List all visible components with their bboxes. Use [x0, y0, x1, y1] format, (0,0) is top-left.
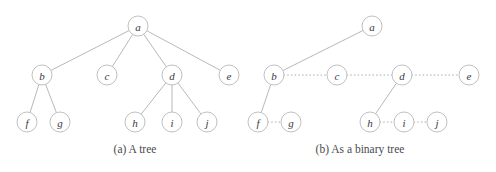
- tree-node-h[interactable]: h: [125, 112, 145, 132]
- tree-node-f[interactable]: f: [248, 112, 268, 132]
- node-label-h: h: [132, 117, 138, 129]
- edge-a-e-solid: [147, 31, 220, 71]
- tree-node-j[interactable]: j: [197, 112, 217, 132]
- tree-node-i[interactable]: i: [394, 112, 414, 132]
- panel-b-nodes: abcdefghij: [248, 16, 479, 132]
- node-label-d: d: [169, 70, 175, 82]
- tree-node-j[interactable]: j: [427, 112, 447, 132]
- tree-node-b[interactable]: b: [32, 65, 52, 85]
- edge-b-f-solid: [261, 84, 271, 112]
- tree-node-e[interactable]: e: [459, 65, 479, 85]
- tree-node-d[interactable]: d: [392, 65, 412, 85]
- node-label-i: i: [402, 117, 405, 129]
- node-label-g: g: [57, 117, 63, 129]
- panel-b: abcdefghij(b) As a binary tree: [248, 16, 479, 156]
- panel-a-nodes: abcdefghij: [17, 16, 239, 132]
- edge-a-c-solid: [112, 34, 132, 66]
- tree-node-f[interactable]: f: [17, 112, 37, 132]
- node-label-c: c: [105, 70, 110, 82]
- node-label-b: b: [39, 70, 45, 82]
- edge-b-f-solid: [30, 85, 39, 113]
- edge-a-b-solid: [51, 31, 129, 71]
- figure-container: abcdefghij(a) A treeabcdefghij(b) As a b…: [0, 0, 496, 172]
- node-label-h: h: [367, 117, 373, 129]
- tree-node-b[interactable]: b: [264, 65, 284, 85]
- panel-a-edges: [30, 31, 220, 115]
- tree-node-a[interactable]: a: [128, 16, 148, 36]
- tree-node-g[interactable]: g: [50, 112, 70, 132]
- node-label-i: i: [170, 117, 173, 129]
- tree-node-g[interactable]: g: [281, 112, 301, 132]
- node-label-c: c: [335, 70, 340, 82]
- node-label-e: e: [467, 70, 472, 82]
- node-label-a: a: [135, 21, 141, 33]
- edge-a-b-solid: [283, 30, 363, 70]
- node-label-d: d: [399, 70, 405, 82]
- node-label-e: e: [227, 70, 232, 82]
- node-label-g: g: [288, 117, 294, 129]
- tree-node-i[interactable]: i: [162, 112, 182, 132]
- edge-d-h-solid: [376, 83, 397, 113]
- panel-b-edges: [261, 30, 459, 122]
- tree-node-e[interactable]: e: [219, 65, 239, 85]
- edge-d-h-solid: [141, 83, 166, 114]
- tree-node-d[interactable]: d: [162, 65, 182, 85]
- tree-node-h[interactable]: h: [360, 112, 380, 132]
- panel-a: abcdefghij(a) A tree: [17, 16, 239, 156]
- panel-b-caption: (b) As a binary tree: [316, 143, 405, 156]
- tree-figure-svg: abcdefghij(a) A treeabcdefghij(b) As a b…: [0, 0, 496, 172]
- node-label-b: b: [271, 70, 277, 82]
- tree-node-c[interactable]: c: [327, 65, 347, 85]
- panel-a-caption: (a) A tree: [114, 143, 157, 156]
- tree-node-c[interactable]: c: [97, 65, 117, 85]
- edge-d-j-solid: [178, 83, 201, 114]
- tree-node-a[interactable]: a: [362, 16, 382, 36]
- edge-b-g-solid: [46, 84, 57, 112]
- node-label-a: a: [369, 21, 375, 33]
